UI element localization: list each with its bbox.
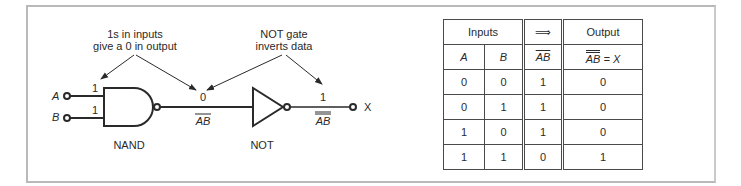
double-overbar-expr: AB <box>586 50 601 65</box>
cell-nand: 1 <box>524 95 563 120</box>
not-gate-body <box>253 88 283 126</box>
truth-table-column-header: A B AB AB = X <box>444 45 643 70</box>
input-a-terminal <box>64 93 70 99</box>
col-header-a: A <box>444 45 485 70</box>
truth-table-group-header: Inputs ⟹ Output <box>444 20 643 45</box>
nand-output-value: 0 <box>200 91 206 103</box>
cell-a: 0 <box>444 95 485 120</box>
col-header-output: AB = X <box>563 45 643 70</box>
table-row: 1 0 1 0 <box>444 120 643 145</box>
not-output-expr: AB <box>315 115 331 127</box>
cell-nand: 1 <box>524 120 563 145</box>
input-a-value: 1 <box>92 82 98 94</box>
not-annotation-line2: inverts data <box>256 40 314 52</box>
not-label: NOT <box>250 139 274 151</box>
not-annotation-line1: NOT gate <box>260 28 308 40</box>
cell-b: 0 <box>485 120 524 145</box>
cell-a: 1 <box>444 120 485 145</box>
nand-expr: AB <box>536 51 551 63</box>
table-row: 0 0 1 0 <box>444 70 643 95</box>
col-header-b: B <box>485 45 524 70</box>
truth-table: Inputs ⟹ Output A B AB AB = X 0 0 1 0 0 … <box>443 19 643 170</box>
arrow-to-nand-output <box>136 55 196 90</box>
cell-nand: 1 <box>524 70 563 95</box>
cell-out: 0 <box>563 70 643 95</box>
table-row: 1 1 0 1 <box>444 145 643 170</box>
nand-label: NAND <box>113 139 144 151</box>
input-a-label: A <box>51 90 59 102</box>
nand-output-expr: AB <box>195 115 211 127</box>
cell-a: 0 <box>444 70 485 95</box>
not-nand-expr: AB <box>586 52 601 65</box>
input-b-label: B <box>52 111 59 123</box>
header-output: Output <box>563 20 643 45</box>
cell-out: 0 <box>563 120 643 145</box>
cell-a: 1 <box>444 145 485 170</box>
col-header-nand: AB <box>524 45 563 70</box>
cell-out: 1 <box>563 145 643 170</box>
arrow-to-input-a <box>101 55 134 79</box>
input-b-value: 1 <box>92 104 98 116</box>
cell-b: 1 <box>485 145 524 170</box>
cell-b: 1 <box>485 95 524 120</box>
output-terminal <box>350 104 356 110</box>
output-label: X <box>364 101 372 113</box>
not-bubble <box>284 104 290 110</box>
cell-out: 0 <box>563 95 643 120</box>
not-output-value: 1 <box>320 91 326 103</box>
nand-annotation-line2: give a 0 in output <box>93 40 177 52</box>
nand-gate-body <box>104 88 153 126</box>
output-equals-x: = X <box>600 53 620 65</box>
cell-nand: 0 <box>524 145 563 170</box>
table-row: 0 1 1 0 <box>444 95 643 120</box>
nand-bubble <box>154 104 160 110</box>
input-b-terminal <box>64 115 70 121</box>
cell-b: 0 <box>485 70 524 95</box>
header-implies-arrow: ⟹ <box>524 20 563 45</box>
arrow-from-not-note-left <box>207 55 282 90</box>
nand-annotation-line1: 1s in inputs <box>107 28 163 40</box>
arrow-from-not-note-right <box>286 55 322 84</box>
header-inputs: Inputs <box>444 20 524 45</box>
